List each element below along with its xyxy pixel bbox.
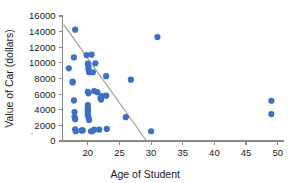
data-point: [268, 98, 274, 104]
x-tick-label: 25: [114, 147, 125, 158]
data-point: [90, 69, 96, 75]
chart-canvas: 0200040006000800010000120001400016000202…: [0, 0, 290, 183]
data-point: [85, 90, 91, 96]
data-point: [154, 34, 160, 40]
trend-line: [64, 25, 146, 141]
data-point: [89, 52, 95, 58]
data-point: [104, 126, 110, 132]
data-point: [92, 60, 98, 66]
y-tick-label: 2000: [34, 120, 55, 131]
x-tick-label: 30: [146, 147, 157, 158]
data-point: [103, 93, 109, 99]
y-tick-label: 8000: [34, 73, 55, 84]
data-point: [268, 111, 274, 117]
x-tick-label: 50: [272, 147, 283, 158]
y-tick-label: 12000: [29, 42, 55, 53]
y-tick-label: 10000: [29, 57, 55, 68]
data-point: [66, 65, 72, 71]
x-tick-label: 35: [177, 147, 188, 158]
data-point: [86, 117, 92, 123]
data-point: [96, 127, 102, 133]
data-point: [103, 73, 109, 79]
data-point: [71, 54, 77, 60]
data-point: [71, 97, 77, 103]
x-tick-label: 45: [241, 147, 252, 158]
data-point: [70, 79, 76, 85]
data-point: [80, 127, 86, 133]
data-point: [123, 114, 129, 120]
y-tick-label: 6000: [34, 89, 55, 100]
data-point: [72, 116, 78, 122]
data-point: [72, 27, 78, 33]
y-tick-label: 4000: [34, 104, 55, 115]
y-axis-title: Value of Car (dollars): [3, 29, 15, 127]
y-tick-label: 16000: [29, 10, 55, 21]
x-tick-label: 20: [83, 147, 94, 158]
y-tick-label: 0: [50, 135, 55, 146]
scatter-plot-figure: 0200040006000800010000120001400016000202…: [0, 0, 290, 183]
x-axis-title: Age of Student: [111, 168, 181, 180]
y-tick-label: 14000: [29, 26, 55, 37]
data-point: [128, 77, 134, 83]
scan-artifact: [31, 133, 33, 135]
data-point: [73, 128, 79, 134]
x-tick-label: 40: [209, 147, 220, 158]
data-point: [148, 128, 154, 134]
